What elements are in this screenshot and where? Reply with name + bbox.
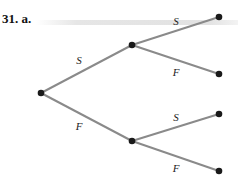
node-SF (216, 71, 223, 78)
edge-label: S (173, 111, 179, 123)
edge-root-F (41, 93, 132, 141)
node-FS (216, 111, 223, 118)
node-S (129, 42, 136, 49)
edge-label: F (75, 120, 83, 132)
edge-label: S (173, 15, 179, 27)
node-SS (216, 14, 223, 21)
probability-tree: SFSFSF (0, 0, 238, 184)
node-root (38, 90, 45, 97)
edge-label: F (172, 66, 180, 78)
tree-diagram: 31. a. SFSFSF (0, 0, 238, 184)
edge-label: S (76, 54, 82, 66)
edge-label: F (172, 162, 180, 174)
node-F (129, 138, 136, 145)
edge-root-S (41, 45, 132, 93)
node-FF (216, 168, 223, 175)
